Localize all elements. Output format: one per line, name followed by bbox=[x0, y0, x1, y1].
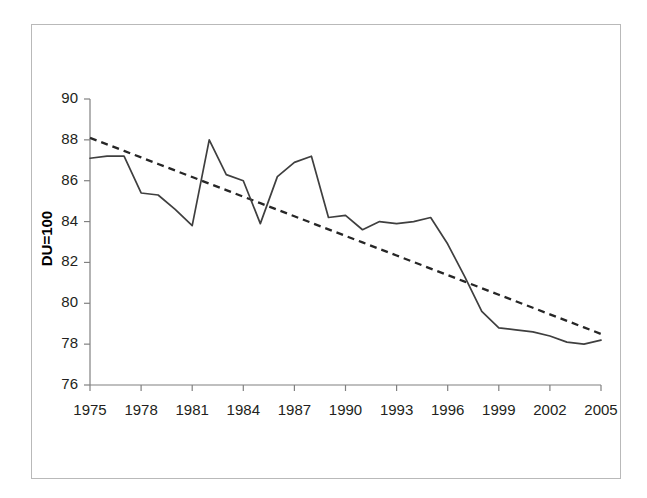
y-tick-label: 82 bbox=[42, 252, 78, 269]
series-group bbox=[90, 138, 601, 344]
y-tick-label: 78 bbox=[42, 334, 78, 351]
x-tick-label: 2005 bbox=[571, 401, 631, 418]
plot-area bbox=[0, 0, 647, 498]
x-ticks-group bbox=[90, 385, 601, 391]
y-tick-label: 80 bbox=[42, 293, 78, 310]
y-ticks-group bbox=[84, 99, 90, 385]
axes-group bbox=[90, 99, 601, 385]
y-tick-label: 84 bbox=[42, 212, 78, 229]
chart-figure: DU=100 7678808284868890 1975197819811984… bbox=[0, 0, 647, 498]
y-tick-label: 86 bbox=[42, 171, 78, 188]
y-tick-label: 88 bbox=[42, 130, 78, 147]
y-tick-label: 76 bbox=[42, 375, 78, 392]
trend-line-path bbox=[90, 138, 601, 334]
y-tick-label: 90 bbox=[42, 89, 78, 106]
data-series-path bbox=[90, 140, 601, 344]
